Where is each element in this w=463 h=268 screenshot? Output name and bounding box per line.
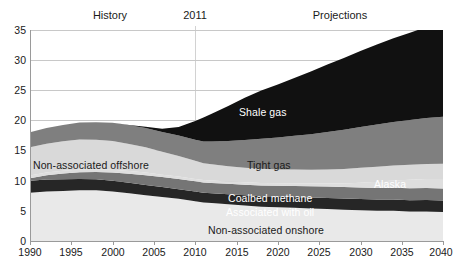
xtick-label: 2015 — [215, 246, 259, 258]
ytick-label: 15 — [2, 145, 26, 155]
ytick-label: 30 — [2, 55, 26, 65]
ytick-label: 35 — [2, 25, 26, 35]
xtick-label: 2005 — [132, 246, 176, 258]
series-label-coalbed-methane: Coalbed methane — [228, 192, 312, 204]
xtick-label: 2010 — [173, 246, 217, 258]
xtick-mark — [154, 241, 155, 245]
xtick-mark — [113, 241, 114, 245]
xtick-label: 2000 — [91, 246, 135, 258]
series-label-shale-gas: Shale gas — [239, 106, 287, 118]
ytick-label: 25 — [2, 85, 26, 95]
series-label-tight-gas: Tight gas — [247, 159, 291, 171]
projections-region-label: Projections — [280, 9, 400, 21]
xtick-mark — [361, 241, 362, 245]
series-label-non-associated-offshore: Non-associated offshore — [33, 159, 149, 171]
xtick-mark — [237, 241, 238, 245]
ytick-label: 0 — [2, 236, 26, 246]
xtick-label: 1995 — [49, 246, 93, 258]
year-divider-label: 2011 — [171, 9, 219, 21]
ytick-label: 5 — [2, 206, 26, 216]
xtick-mark — [402, 241, 403, 245]
series-label-non-associated-onshore: Non-associated onshore — [208, 224, 324, 236]
xtick-label: 2035 — [380, 246, 424, 258]
xtick-mark — [71, 241, 72, 245]
xtick-mark — [30, 241, 31, 245]
history-region-label: History — [60, 9, 160, 21]
xtick-label: 2020 — [256, 246, 300, 258]
xtick-mark — [278, 241, 279, 245]
xtick-mark — [319, 241, 320, 245]
xtick-mark — [195, 241, 196, 245]
xtick-mark — [443, 241, 444, 245]
series-label-alaska: Alaska — [374, 178, 406, 190]
xtick-label: 2040 — [419, 246, 463, 258]
xtick-label: 2025 — [297, 246, 341, 258]
xtick-label: 2030 — [339, 246, 383, 258]
chart-container: History 2011 Projections 35 30 25 20 15 … — [0, 0, 463, 268]
xtick-label: 1990 — [8, 246, 52, 258]
series-label-associated-with-oil: Associated with oil — [226, 206, 314, 218]
ytick-label: 20 — [2, 115, 26, 125]
y-axis-line — [30, 30, 31, 242]
ytick-label: 10 — [2, 176, 26, 186]
